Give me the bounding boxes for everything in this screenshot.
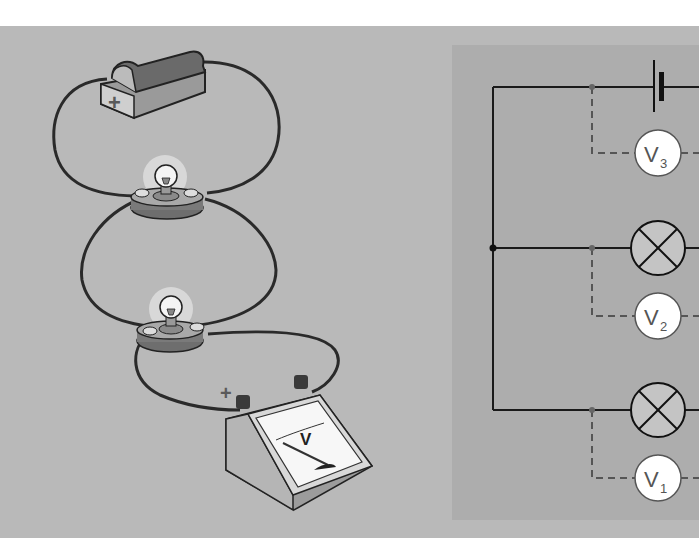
svg-text:1: 1 <box>660 481 667 496</box>
schematic-diagram: V 3 V 2 V 1 <box>0 0 699 553</box>
svg-text:V: V <box>644 467 659 492</box>
probe-dot <box>589 245 595 251</box>
probe-dot <box>589 407 595 413</box>
voltmeter-v3: V 3 <box>635 130 681 176</box>
junction-dot <box>490 245 497 252</box>
lamp-symbol-bottom <box>631 383 685 437</box>
cell-symbol <box>654 60 664 112</box>
voltmeter-v2: V 2 <box>635 293 681 339</box>
svg-text:3: 3 <box>660 156 667 171</box>
probe-dot <box>589 84 595 90</box>
svg-text:V: V <box>644 142 659 167</box>
svg-text:2: 2 <box>660 319 667 334</box>
svg-text:V: V <box>644 305 659 330</box>
voltmeter-v1: V 1 <box>635 455 681 501</box>
lamp-symbol-middle <box>631 221 685 275</box>
